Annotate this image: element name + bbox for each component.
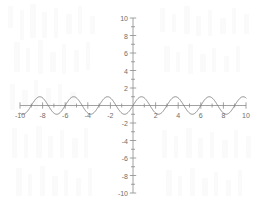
x-tick-label: -2: [107, 112, 113, 119]
y-tick-label: 6: [124, 50, 128, 57]
x-tick-label: -10: [15, 112, 25, 119]
x-tick-label: -4: [85, 112, 91, 119]
x-tick-label: 10: [242, 112, 250, 119]
y-tick-label: -6: [122, 155, 128, 162]
y-tick-label: 4: [124, 67, 128, 74]
x-tick-label: 4: [176, 112, 180, 119]
chart-figure: -10-8-6-4-2246810 108642-2-4-6-8-10: [0, 0, 266, 210]
x-tick-label: -6: [62, 112, 68, 119]
y-tick-label: -2: [122, 120, 128, 127]
x-tick-label: 2: [154, 112, 158, 119]
x-tick-label: 6: [199, 112, 203, 119]
x-tick-label: -8: [39, 112, 45, 119]
y-tick-label: -10: [118, 190, 128, 197]
y-tick-label: 8: [124, 32, 128, 39]
x-tick-label: 8: [221, 112, 225, 119]
y-tick-label: 10: [120, 15, 128, 22]
y-tick-label: -4: [122, 137, 128, 144]
y-tick-label: -8: [122, 172, 128, 179]
plot-area: [0, 0, 266, 210]
y-tick-label: 2: [124, 85, 128, 92]
